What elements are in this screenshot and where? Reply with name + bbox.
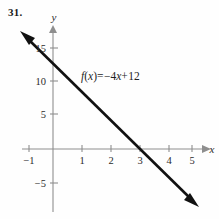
y-axis — [49, 25, 58, 212]
x-tick-label-4: 4 — [166, 155, 172, 166]
x-axis-label: x — [209, 143, 215, 155]
function-equation-label: f(x)=−4x+12 — [81, 71, 140, 83]
x-tick-label--1: −1 — [23, 155, 34, 166]
x-tick-label-2: 2 — [108, 155, 113, 166]
figure-container: 31. −1 1 2 — [0, 0, 219, 219]
x-axis — [22, 145, 211, 153]
y-tick-label-15: 15 — [36, 43, 47, 54]
equation-equals: = — [97, 70, 104, 82]
x-tick-label-5: 5 — [189, 155, 194, 166]
x-tick-label-1: 1 — [79, 155, 84, 166]
equation-slope-term: −4 — [104, 70, 116, 82]
y-tick-label--5: −5 — [35, 178, 46, 189]
y-tick-label-10: 10 — [36, 76, 47, 87]
function-line — [27, 38, 192, 200]
equation-intercept: 12 — [128, 70, 140, 82]
y-axis-arrowhead — [49, 25, 57, 33]
y-axis-label: y — [51, 11, 57, 23]
y-tick-label-5: 5 — [41, 109, 46, 120]
coordinate-plane-graph: −1 1 2 3 4 5 5 10 15 −5 x y — [0, 0, 219, 219]
function-line-group — [20, 31, 199, 207]
x-tick-label-3: 3 — [137, 155, 142, 166]
